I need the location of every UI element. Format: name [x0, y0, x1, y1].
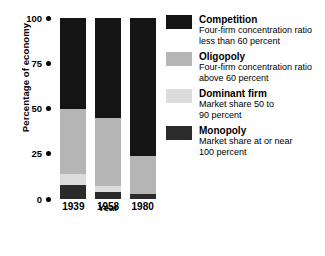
legend-label: Dominant firm: [199, 88, 321, 99]
bar-segment-competition: [60, 18, 86, 109]
legend-item: OligopolyFour-firm concentration ratioab…: [166, 51, 321, 83]
legend-swatch: [166, 52, 192, 66]
bar-segment-oligopoly: [130, 156, 156, 194]
bar-segment-monopoly: [60, 185, 86, 199]
y-tick-dot-icon: [46, 197, 51, 202]
y-tick-dot-icon: [46, 16, 51, 21]
legend-item: CompetitionFour-firm concentration ratio…: [166, 14, 321, 46]
bar-segment-competition: [130, 18, 156, 156]
legend-text: CompetitionFour-firm concentration ratio…: [199, 14, 321, 46]
bar-segment-oligopoly: [60, 109, 86, 174]
y-tick-label: 25: [31, 148, 42, 159]
bar-1939: [60, 18, 86, 199]
legend-description-line: 90 percent: [199, 110, 321, 121]
y-tick-dot-icon: [46, 106, 51, 111]
y-tick-label: 75: [31, 58, 42, 69]
bar-segment-competition: [95, 18, 121, 118]
legend-label: Oligopoly: [199, 51, 321, 62]
legend-description-line: Market share 50 to: [199, 99, 321, 110]
legend-description-line: 100 percent: [199, 147, 321, 158]
legend-text: MonopolyMarket share at or near100 perce…: [199, 125, 321, 157]
y-axis-title: Percentage of economy: [20, 0, 31, 158]
y-tick-label: 50: [31, 103, 42, 114]
legend-description-line: less than 60 percent: [199, 36, 321, 47]
legend-description-line: Four-firm concentration ratio: [199, 62, 321, 73]
legend-label: Competition: [199, 14, 321, 25]
legend-description-line: Market share at or near: [199, 136, 321, 147]
legend-label: Monopoly: [199, 125, 321, 136]
bar-segment-monopoly: [95, 192, 121, 199]
legend-description-line: Four-firm concentration ratio: [199, 25, 321, 36]
y-tick-dot-icon: [46, 151, 51, 156]
legend-swatch: [166, 15, 192, 29]
x-axis-title: Year: [56, 202, 160, 213]
legend-swatch: [166, 89, 192, 103]
bar-1980: [130, 18, 156, 199]
legend-description-line: above 60 percent: [199, 73, 321, 84]
y-tick-dot-icon: [46, 61, 51, 66]
legend-item: MonopolyMarket share at or near100 perce…: [166, 125, 321, 157]
chart-figure: Percentage of economy 1007550250 1939195…: [0, 0, 325, 256]
bar-1958: [95, 18, 121, 199]
legend-text: OligopolyFour-firm concentration ratioab…: [199, 51, 321, 83]
chart-legend: CompetitionFour-firm concentration ratio…: [166, 14, 321, 162]
y-tick-label: 0: [37, 194, 42, 205]
bar-segment-monopoly: [130, 194, 156, 199]
legend-text: Dominant firmMarket share 50 to90 percen…: [199, 88, 321, 120]
legend-swatch: [166, 126, 192, 140]
legend-item: Dominant firmMarket share 50 to90 percen…: [166, 88, 321, 120]
plot-area: 1007550250 193919581980: [56, 18, 160, 199]
bar-segment-oligopoly: [95, 118, 121, 187]
y-tick-label: 100: [26, 13, 42, 24]
bar-segment-dominant-firm: [60, 174, 86, 185]
